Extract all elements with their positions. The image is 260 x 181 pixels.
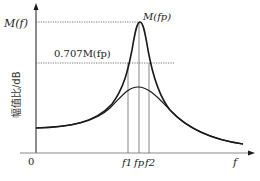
peak-label: M(fp) [142,11,171,22]
y-axis-symbol-label: M(f) [3,17,28,30]
y-axis-arrow-icon [34,3,39,10]
high-q-curve [36,22,243,144]
f1-label: f1 [121,157,132,168]
resonance-diagram: M(f) M(fp) 0.707M(fp) 幅值比/dB 0 f1 fp f2 … [0,0,260,181]
fp-label: fp [133,157,145,168]
half-power-label: 0.707M(fp) [54,48,111,59]
f2-label: f2 [144,157,155,168]
low-q-curve [36,87,243,144]
y-axis-label: 幅值比/dB [10,71,22,118]
x-axis-symbol-label: f [232,156,239,169]
x-axis-arrow-icon [248,151,255,156]
origin-label: 0 [28,156,34,167]
